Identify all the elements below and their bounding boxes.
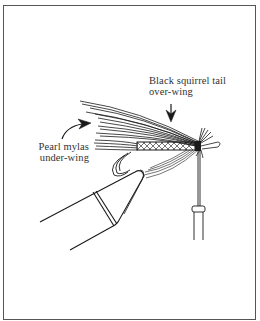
arrow-under-wing xyxy=(62,119,91,139)
under-wing-label: Pearl mylas under-wing xyxy=(33,141,89,163)
under-wing-label-line2: under-wing xyxy=(33,152,89,163)
vise-post xyxy=(192,150,205,240)
over-wing-label-line1: Black squirrel tail xyxy=(149,75,226,86)
under-wing-fibers xyxy=(144,146,198,178)
vise-jaws xyxy=(40,170,144,250)
under-wing-label-line1: Pearl mylas xyxy=(33,141,89,152)
hook-bend xyxy=(112,152,131,176)
over-wing-label-line2: over-wing xyxy=(149,86,226,97)
over-wing-label: Black squirrel tail over-wing xyxy=(149,75,226,97)
arrow-over-wing xyxy=(166,104,176,122)
